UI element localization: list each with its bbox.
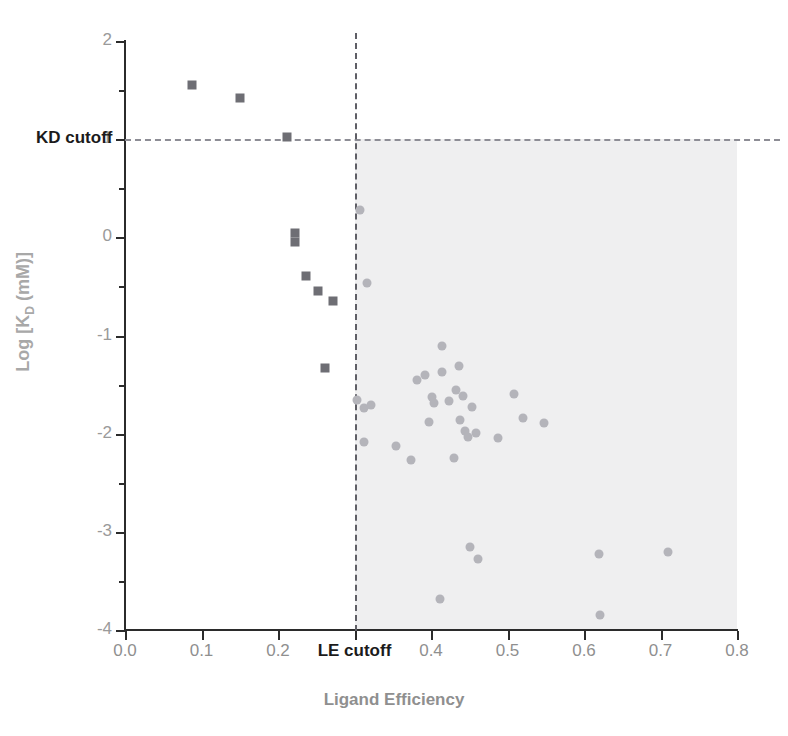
data-point	[360, 437, 369, 446]
kd-cutoff-line	[125, 139, 780, 141]
x-tick-major	[508, 631, 510, 640]
data-point	[437, 367, 446, 376]
y-tick-label: -2	[52, 423, 112, 443]
y-tick-major	[116, 237, 125, 239]
y-tick-minor	[119, 483, 125, 485]
x-tick-label: 0.8	[702, 641, 772, 661]
y-tick-major	[116, 630, 125, 632]
data-point	[436, 594, 445, 603]
data-point	[235, 93, 244, 102]
data-point	[472, 428, 481, 437]
y-tick-minor	[119, 385, 125, 387]
y-axis-title-subscript: D	[23, 306, 37, 315]
data-point	[188, 81, 197, 90]
le-cutoff-label: LE cutoff	[305, 641, 405, 661]
data-point	[467, 403, 476, 412]
y-tick-major	[116, 532, 125, 534]
data-point	[445, 397, 454, 406]
x-tick-label: 0.1	[167, 641, 237, 661]
x-tick-label: 0.7	[626, 641, 696, 661]
data-point	[355, 205, 364, 214]
y-tick-minor	[119, 581, 125, 583]
data-point	[474, 555, 483, 564]
data-point	[290, 238, 299, 247]
data-point	[518, 413, 527, 422]
data-point	[283, 133, 292, 142]
data-point	[438, 342, 447, 351]
y-tick-label: 2	[52, 30, 112, 50]
y-tick-minor	[119, 188, 125, 190]
data-point	[424, 417, 433, 426]
data-point	[321, 363, 330, 372]
data-point	[454, 361, 463, 370]
y-axis-title-post: (mM)]	[13, 252, 33, 306]
qualified-region-shading	[355, 139, 738, 630]
data-point	[407, 456, 416, 465]
y-axis-title-pre: Log [K	[13, 315, 33, 372]
data-point	[313, 287, 322, 296]
x-tick-label: 0.6	[549, 641, 619, 661]
x-tick-major	[431, 631, 433, 640]
data-point	[596, 611, 605, 620]
y-tick-label: -4	[52, 619, 112, 639]
y-tick-minor	[119, 90, 125, 92]
x-tick-major	[584, 631, 586, 640]
data-point	[367, 401, 376, 410]
data-point	[302, 271, 311, 280]
y-tick-label: -3	[52, 521, 112, 541]
y-tick-major	[116, 41, 125, 43]
x-tick-label: 0.5	[473, 641, 543, 661]
x-tick-label: 0.2	[243, 641, 313, 661]
y-axis-title: Log [KD (mM)]	[13, 182, 37, 442]
x-tick-label: 0.0	[90, 641, 160, 661]
x-tick-major	[661, 631, 663, 640]
x-tick-major	[202, 631, 204, 640]
data-point	[352, 396, 361, 405]
x-axis-title: Ligand Efficiency	[0, 690, 788, 710]
x-tick-label: 0.4	[396, 641, 466, 661]
data-point	[362, 279, 371, 288]
y-tick-label: 0	[52, 226, 112, 246]
data-point	[463, 432, 472, 441]
data-point	[430, 399, 439, 408]
data-point	[459, 392, 468, 401]
data-point	[456, 415, 465, 424]
data-point	[329, 297, 338, 306]
data-point	[540, 418, 549, 427]
y-tick-major	[116, 139, 125, 141]
x-tick-major	[355, 631, 357, 640]
x-tick-major	[737, 631, 739, 640]
data-point	[391, 442, 400, 451]
data-point	[449, 454, 458, 463]
y-tick-minor	[119, 286, 125, 288]
y-tick-label: -1	[52, 325, 112, 345]
data-point	[493, 433, 502, 442]
data-point	[290, 229, 299, 238]
data-point	[420, 370, 429, 379]
x-tick-major	[278, 631, 280, 640]
data-point	[664, 548, 673, 557]
scatter-plot-figure: 210-1-2-3-40.00.10.2LE cutoff0.40.50.60.…	[0, 0, 788, 736]
kd-cutoff-label: KD cutoff	[36, 128, 112, 148]
le-cutoff-line	[355, 33, 357, 631]
data-point	[466, 542, 475, 551]
y-tick-major	[116, 434, 125, 436]
data-point	[594, 550, 603, 559]
data-point	[509, 390, 518, 399]
y-tick-major	[116, 336, 125, 338]
x-tick-major	[125, 631, 127, 640]
